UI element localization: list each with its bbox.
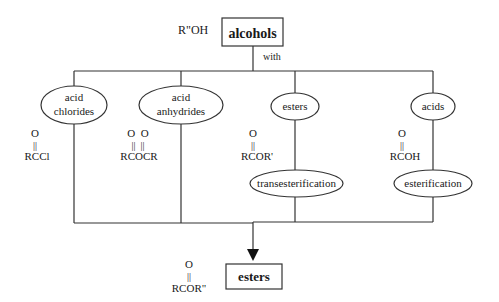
acid-anhydrides-line1: acid xyxy=(172,91,191,103)
acid-chlorides-line1: acid xyxy=(65,91,84,103)
esters-reactant-label: esters xyxy=(282,100,307,112)
acid-anhydride-carbonyl-o: O O xyxy=(127,127,148,139)
acid-formula: RCOH xyxy=(390,150,421,162)
acid-chloride-formula: RCCl xyxy=(24,150,49,162)
ester-formula: RCOR' xyxy=(241,150,273,162)
product-double-bond: || xyxy=(187,271,191,282)
acid-anhydrides-line2: anhydrides xyxy=(157,105,205,117)
transesterification-label: transesterification xyxy=(257,177,336,189)
acid-chlorides-line2: chlorides xyxy=(54,105,94,117)
alcohol-formula: R"OH xyxy=(178,23,209,37)
product-formula: RCOR" xyxy=(172,282,206,294)
ester-synthesis-diagram: alcohols R"OH with acid chlorides O || R… xyxy=(0,0,499,302)
acid-chloride-carbonyl-o: O xyxy=(31,127,39,139)
acids-label: acids xyxy=(422,100,445,112)
acid-anhydride-formula: RCOCR xyxy=(120,150,158,162)
acid-carbonyl-o: O xyxy=(398,127,406,139)
esters-product-label: esters xyxy=(238,269,270,284)
esterification-label: esterification xyxy=(404,177,462,189)
arrow-down-icon xyxy=(247,249,259,261)
product-carbonyl-o: O xyxy=(185,258,193,270)
with-label: with xyxy=(263,51,281,62)
alcohols-label: alcohols xyxy=(228,26,277,41)
ester-carbonyl-o: O xyxy=(249,127,257,139)
